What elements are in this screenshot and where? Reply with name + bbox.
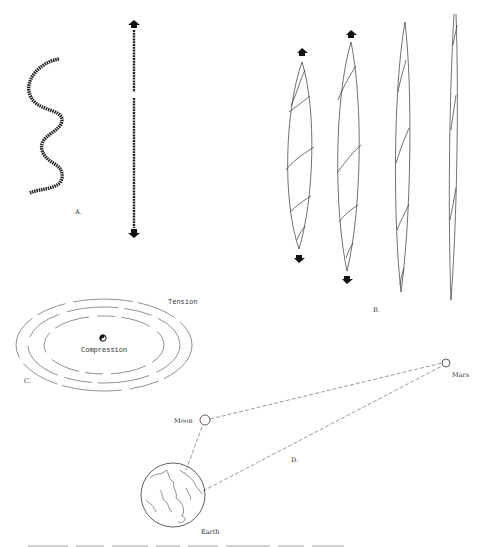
fiber-bundle-4 <box>449 14 457 300</box>
arrow-down-icon <box>128 229 140 238</box>
fiber-bundle-1 <box>286 48 314 263</box>
panel-d: Moon Mars Earth D. <box>141 359 469 536</box>
moon-label: Moon <box>174 417 193 425</box>
earth-icon <box>141 463 205 527</box>
mars-icon <box>442 359 450 367</box>
moon-icon <box>200 415 210 425</box>
arrow-down-icon <box>342 276 353 284</box>
ring-outer <box>16 299 192 391</box>
ring-inner <box>44 316 164 374</box>
panel-b <box>286 14 457 300</box>
arrow-up-icon <box>128 20 140 28</box>
coiled-rope <box>29 59 62 193</box>
panel-a-label: A. <box>74 208 82 216</box>
panel-a: A. <box>29 20 140 238</box>
fiber-bundle-3 <box>395 22 410 292</box>
earth-label: Earth <box>201 528 220 536</box>
panel-c <box>16 299 192 391</box>
mars-label: Mars <box>452 371 469 379</box>
earth-mars-line <box>203 366 442 491</box>
arrow-down-icon <box>294 255 305 263</box>
compression-center-icon <box>100 335 106 341</box>
tension-label: Tension <box>168 298 197 306</box>
arrow-up-icon <box>297 48 308 56</box>
fiber-bundle-2 <box>337 30 361 284</box>
compression-label: Compression <box>81 346 127 354</box>
figure-canvas: A. <box>0 0 480 547</box>
panel-b-label: B. <box>373 306 380 314</box>
arrow-up-icon <box>346 30 357 38</box>
panel-d-label: D. <box>291 456 298 464</box>
figure-caption-illegible <box>28 536 388 544</box>
ring-middle <box>28 307 180 383</box>
moon-mars-line <box>210 363 442 419</box>
panel-c-label: C. <box>24 377 31 385</box>
